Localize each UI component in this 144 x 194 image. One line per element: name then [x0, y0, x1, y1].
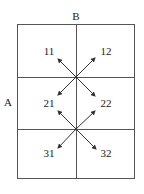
cell-label-31: 31: [44, 147, 55, 159]
arrow-to-21: [58, 77, 76, 95]
cell-label-21: 21: [44, 97, 55, 109]
arrow-to-22: [76, 111, 95, 129]
side-label: A: [4, 96, 12, 108]
grid-diagram: B A 11 12 21 22 31 32: [0, 0, 144, 194]
cell-label-12: 12: [101, 45, 112, 57]
cell-label-32: 32: [101, 147, 112, 159]
arrow-to-31: [58, 129, 76, 148]
arrow-to-12: [76, 58, 95, 77]
arrow-to-11: [58, 59, 76, 77]
top-label: B: [72, 10, 79, 22]
cell-label-22: 22: [101, 97, 112, 109]
arrow-to-21: [58, 111, 76, 129]
arrow-to-32: [76, 129, 96, 149]
arrow-to-22: [76, 77, 95, 96]
cell-label-11: 11: [44, 45, 55, 57]
